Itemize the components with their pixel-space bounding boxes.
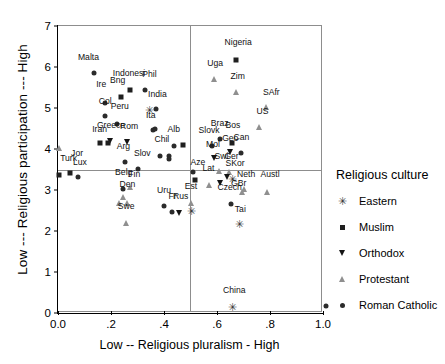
x-tick-label: .2 [91,311,131,330]
legend-item-eastern[interactable]: ✳Eastern [334,194,444,208]
marker-triangle-up [339,276,345,282]
marker-circle [152,126,157,131]
data-point-label: Lat [203,164,215,173]
data-point-label: Lux [73,159,87,168]
data-point-label: Rom [120,122,138,131]
marker-circle [162,204,167,209]
marker-circle [340,303,345,308]
data-point-label: Ita [146,112,156,121]
data-point-label: Malta [78,53,99,62]
data-point-label: Bng [110,76,125,85]
marker-triangle-up [216,168,222,174]
legend-marker [334,303,350,308]
marker-circle [228,202,233,207]
data-point-label: Rus [173,193,188,202]
reference-line-vertical [190,26,191,311]
marker-circle [158,153,163,158]
marker-square [118,94,123,99]
data-point-label: China [223,286,245,295]
data-point-label: Den [120,181,136,190]
x-tick-label: .4 [144,311,184,330]
legend-marker [334,276,350,282]
marker-square [57,172,62,177]
marker-triangle-up [123,220,129,226]
data-point-label: Phil [142,70,156,79]
marker-triangle-down [224,174,230,180]
marker-triangle-up [56,145,62,151]
data-point-label: Austl [260,170,279,179]
y-tick-label: 1 [11,266,58,278]
marker-circle [169,209,174,214]
x-tick-label: 0.0 [38,311,78,330]
marker-triangle-up [264,189,270,195]
data-point-label: Uga [207,59,223,68]
legend-item-label: Muslim [359,221,394,233]
x-axis-title: Low -- Religious pluralism - High [57,338,322,352]
legend-marker: ✳ [334,197,350,206]
marker-square [128,87,133,92]
marker-triangle-up [120,194,126,200]
legend-title: Religious culture [336,168,444,182]
data-point-label: Alb [168,126,180,135]
marker-circle [103,114,108,119]
legend-item-label: Orthodox [359,247,404,259]
data-point-label: Zim [230,72,244,81]
legend-item-roman-catholic[interactable]: Roman Catholic [334,298,444,312]
data-point-label: India [148,90,167,99]
marker-circle [323,303,328,308]
data-point-label: Ire [96,81,106,90]
data-point-label: Tai [235,205,246,214]
data-point-label: US [257,108,269,117]
data-point-label: Est [185,182,197,191]
y-axis-title: Low --- Religious participation --- High [15,10,30,310]
data-point-label: Slov [134,149,151,158]
legend-marker [334,225,350,230]
data-point-label: SAfr [263,89,280,98]
marker-triangle-down [339,250,345,256]
data-point-label: Swe [118,203,135,212]
data-point-label: Peru [111,103,129,112]
marker-circle [91,70,96,75]
data-point-label: Arg [117,143,130,152]
marker-square [181,143,186,148]
data-point-label: Nigeria [225,38,252,47]
y-tick-label: 7 [11,20,58,32]
marker-triangle-up [233,89,239,95]
y-tick-label: 2 [11,225,58,237]
legend: Religious culture ✳EasternMuslimOrthodox… [334,168,444,324]
data-point-label: Slovk [199,127,220,136]
marker-star: ✳ [338,197,347,206]
y-tick-label: 3 [11,184,58,196]
data-point-label: Geo [222,134,238,143]
legend-item-orthodox[interactable]: Orthodox [334,246,444,260]
y-tick-label: 6 [11,61,58,73]
marker-circle [191,170,196,175]
data-point-label: Czech [218,183,242,192]
legend-marker [334,250,350,256]
marker-star: ✳ [187,207,196,216]
legend-item-protestant[interactable]: Protestant [334,272,444,286]
data-point-label: Mol [206,140,220,149]
reference-line-horizontal [58,170,321,171]
data-point-label: SKor [225,160,244,169]
marker-triangle-down [176,210,182,216]
plot-area: 01234567 0.0.2.4.6.81.0 MaltaIndonesiPhi… [57,25,322,312]
marker-circle [76,175,81,180]
legend-item-label: Protestant [359,273,409,285]
data-point-label: Chil [154,136,169,145]
legend-item-muslim[interactable]: Muslim [334,220,444,234]
marker-star: ✳ [235,220,244,229]
x-tick-label: .8 [250,311,290,330]
data-point-label: Iran [92,125,107,134]
marker-circle [123,160,128,165]
legend-item-label: Eastern [359,195,397,207]
marker-square [340,225,345,230]
marker-square [98,141,103,146]
marker-triangle-up [206,182,212,188]
marker-square [68,170,73,175]
data-point-label: Bos [225,122,240,131]
marker-square [234,57,239,62]
marker-circle [166,156,171,161]
marker-triangle-up [211,76,217,82]
marker-circle [172,143,177,148]
